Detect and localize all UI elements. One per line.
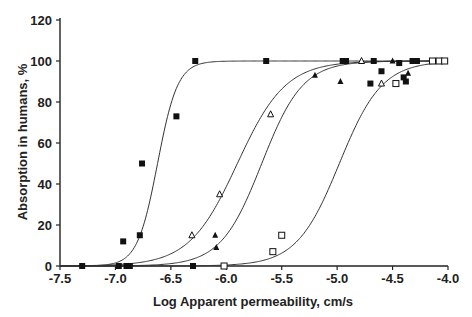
filled-square-marker — [414, 58, 420, 64]
open-square-marker — [270, 249, 276, 255]
open-triangle-marker — [378, 80, 384, 86]
x-tick-label: -5.5 — [271, 271, 293, 286]
x-tick-label: -7.0 — [104, 271, 126, 286]
filled-triangle-marker — [405, 70, 411, 76]
y-tick-label: 100 — [30, 54, 52, 69]
open-triangle-marker — [217, 191, 223, 197]
open-square-marker — [221, 263, 227, 269]
x-tick-label: -6.5 — [160, 271, 182, 286]
chart: 020406080100120 -7.5-7.0-6.5-6.0-5.5-5.0… — [0, 0, 472, 317]
filled-square-marker — [403, 79, 409, 85]
x-axis: -7.5-7.0-6.5-6.0-5.5-5.0-4.5-4.0 — [49, 266, 459, 286]
filled-square-marker — [120, 238, 126, 244]
fit-curve — [60, 61, 448, 266]
fit-curve — [60, 61, 448, 266]
x-axis-title: Log Apparent permeability, cm/s — [153, 294, 353, 309]
y-tick-label: 80 — [38, 95, 52, 110]
filled-square-marker — [190, 263, 196, 269]
filled-triangle-marker — [337, 78, 343, 84]
filled-square-marker — [116, 263, 122, 269]
data-points — [79, 58, 448, 270]
filled-square-marker — [378, 68, 384, 74]
filled-square-marker — [192, 58, 198, 64]
x-tick-label: -4.5 — [381, 271, 403, 286]
filled-square-marker — [367, 81, 373, 87]
y-tick-label: 20 — [38, 218, 52, 233]
open-square-marker — [442, 58, 448, 64]
x-tick-label: -6.0 — [215, 271, 237, 286]
filled-square-marker — [139, 161, 145, 167]
filled-square-marker — [343, 58, 349, 64]
filled-square-marker — [137, 232, 143, 238]
filled-square-marker — [371, 58, 377, 64]
x-tick-label: -4.0 — [437, 271, 459, 286]
y-tick-label: 120 — [30, 13, 52, 28]
fit-curve — [60, 61, 448, 266]
open-square-marker — [429, 58, 435, 64]
y-tick-label: 60 — [38, 136, 52, 151]
open-square-marker — [279, 232, 285, 238]
open-triangle-marker — [268, 111, 274, 117]
y-tick-label: 40 — [38, 177, 52, 192]
filled-square-marker — [79, 263, 85, 269]
filled-square-marker — [173, 113, 179, 119]
filled-square-marker — [396, 60, 402, 66]
filled-triangle-marker — [212, 232, 218, 238]
fit-curves — [60, 61, 448, 266]
x-tick-label: -5.0 — [326, 271, 348, 286]
filled-square-marker — [127, 263, 133, 269]
y-axis: 020406080100120 — [30, 13, 60, 274]
fit-curve — [60, 62, 448, 266]
open-square-marker — [393, 81, 399, 87]
x-tick-label: -7.5 — [49, 271, 71, 286]
y-axis-title: Absorption in humans, % — [15, 63, 30, 220]
filled-triangle-marker — [312, 72, 318, 78]
filled-square-marker — [263, 58, 269, 64]
open-triangle-marker — [189, 232, 195, 238]
